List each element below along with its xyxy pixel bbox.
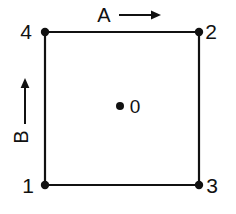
node-label-4: 4 xyxy=(20,20,32,43)
center-dot xyxy=(116,102,124,110)
node-dot-4 xyxy=(41,28,49,36)
axis-a-arrow-head xyxy=(151,11,161,20)
axis-a-arrow-group: A xyxy=(97,4,161,26)
node-label-1: 1 xyxy=(22,174,34,197)
axis-label-b: B xyxy=(10,130,32,143)
square-node-diagram: 4 2 1 3 0 A B xyxy=(0,0,236,214)
node-label-2: 2 xyxy=(205,20,217,43)
center-node-0: 0 xyxy=(116,96,140,117)
axis-b-arrow-head xyxy=(21,78,30,88)
node-dot-2 xyxy=(195,28,203,36)
diagram-canvas: 4 2 1 3 0 A B xyxy=(0,0,236,214)
node-dot-3 xyxy=(195,181,203,189)
center-label-0: 0 xyxy=(130,96,141,117)
axis-label-a: A xyxy=(97,4,111,26)
axis-b-arrow-group: B xyxy=(10,78,32,144)
node-label-3: 3 xyxy=(206,174,218,197)
node-dot-1 xyxy=(41,181,49,189)
